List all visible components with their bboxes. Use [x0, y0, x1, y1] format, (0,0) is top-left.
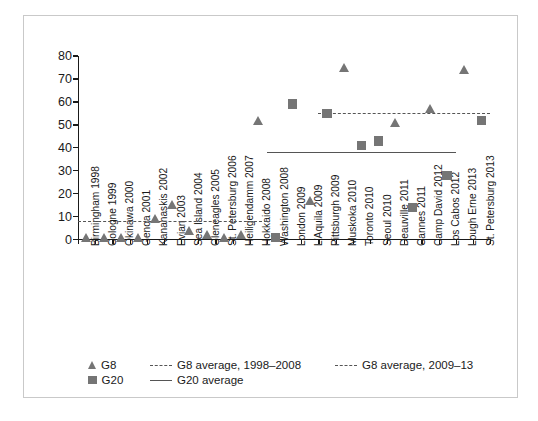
y-tick-label-60: 60 [46, 95, 72, 109]
x-tick-label-16: Toronto 2010 [365, 187, 375, 246]
y-tick-60 [73, 101, 78, 102]
x-tick-label-9: Heiligendamm 2007 [245, 155, 255, 246]
data-point-g8-evian-2003 [167, 200, 177, 209]
x-tick-label-18: Deauville 2011 [400, 179, 410, 246]
y-tick-label-40: 40 [46, 141, 72, 155]
data-point-g20-los-cabos-2012 [442, 171, 451, 180]
data-point-g8-gleneagles-2005 [202, 230, 212, 239]
x-tick-label-17: Seoul 2010 [383, 194, 393, 246]
data-point-g8-lough-erne-2013 [459, 65, 469, 74]
y-tick-10 [73, 216, 78, 217]
y-tick-label-50: 50 [46, 118, 72, 132]
legend-item-g20: G20 [88, 374, 123, 386]
data-point-g8-okinawa-2000 [116, 233, 126, 242]
data-point-g20-seoul-2010 [374, 136, 383, 145]
data-point-g8-birmingham-1998 [81, 233, 91, 242]
legend-row-2: G20 G20 average [88, 374, 508, 389]
x-tick-label-15: Muskoka 2010 [348, 180, 358, 246]
reference-line-1 [318, 113, 490, 114]
data-point-g20-cannes-2011 [408, 203, 417, 212]
data-point-g8-kananaskis-2002 [150, 214, 160, 223]
data-point-g8-heiligendamm-2007 [236, 230, 246, 239]
data-point-g20-toronto-2010 [357, 141, 366, 150]
x-tick-label-19: Cannes 2011 [417, 186, 427, 246]
data-point-g20-london-2009 [288, 99, 297, 108]
scatter-chart: 01020304050607080 Birmingham 1998Cologne… [0, 0, 538, 421]
legend-label-g8-avg-1998-2008: G8 average, 1998–2008 [177, 359, 301, 371]
x-tick-0 [78, 239, 79, 244]
dashed-line-icon [150, 365, 172, 366]
dashed-line-icon-2 [335, 365, 357, 366]
legend-row-1: G8 G8 average, 1998–2008 G8 average, 200… [88, 359, 508, 374]
y-tick-label-80: 80 [46, 49, 72, 63]
x-tick-label-14: Pittsburgh 2009 [331, 175, 341, 246]
legend-label-g8-avg-2009-13: G8 average, 2009–13 [362, 359, 473, 371]
legend-label-g20-avg: G20 average [177, 374, 244, 386]
data-point-g8-genoa-2001 [133, 233, 143, 242]
y-tick-label-20: 20 [46, 187, 72, 201]
data-point-g8-deauville-2011 [390, 118, 400, 127]
y-tick-20 [73, 193, 78, 194]
solid-line-icon [150, 380, 172, 381]
triangle-marker-icon [88, 361, 96, 369]
data-point-g8-cologne-1999 [99, 233, 109, 242]
data-point-g8-muskoka-2010 [339, 63, 349, 72]
legend-item-g8-avg-2009-13: G8 average, 2009–13 [335, 359, 473, 371]
data-point-g20-st-petersburg-2013 [477, 116, 486, 125]
legend-label-g8: G8 [101, 359, 116, 371]
y-tick-40 [73, 147, 78, 148]
x-tick-label-22: Lough Erne 2013 [468, 168, 478, 246]
reference-line-0 [78, 221, 267, 222]
data-point-g8-sea-island-2004 [184, 226, 194, 235]
y-tick-label-70: 70 [46, 72, 72, 86]
x-tick-label-11: Washington 2008 [280, 167, 290, 246]
square-marker-icon [88, 376, 97, 385]
y-tick-label-10: 10 [46, 210, 72, 224]
x-tick-label-23: St. Petersburg 2013 [486, 155, 496, 246]
y-tick-30 [73, 170, 78, 171]
y-tick-80 [73, 55, 78, 56]
data-point-g8-l-aquila-2009 [305, 196, 315, 205]
data-point-g20-washington-2008 [271, 233, 280, 242]
reference-line-2 [267, 152, 456, 153]
legend-item-g8: G8 [88, 359, 116, 371]
y-tick-70 [73, 78, 78, 79]
y-tick-50 [73, 124, 78, 125]
data-point-g8-st-petersburg-2006 [219, 233, 229, 242]
y-tick-label-30: 30 [46, 164, 72, 178]
y-tick-label-0: 0 [46, 233, 72, 247]
data-point-g8-camp-david-2012 [425, 104, 435, 113]
data-point-g20-pittsburgh-2009 [322, 109, 331, 118]
x-tick-label-13: L'Aquila 2009 [314, 185, 324, 246]
legend-label-g20: G20 [102, 374, 124, 386]
x-tick-label-21: Los Cabos 2012 [451, 172, 461, 246]
legend-item-g20-avg: G20 average [150, 374, 244, 386]
data-point-g8-hokkaido-2008 [253, 116, 263, 125]
y-axis-line [78, 56, 79, 240]
chart-legend: G8 G8 average, 1998–2008 G8 average, 200… [88, 359, 508, 389]
legend-item-g8-avg-1998-2008: G8 average, 1998–2008 [150, 359, 301, 371]
